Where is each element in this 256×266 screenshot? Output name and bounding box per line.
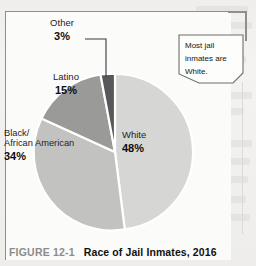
pie-label-other-name: Other	[34, 18, 90, 29]
pie-label-white-name: White	[122, 130, 182, 141]
pie-label-other: Other 3%	[34, 18, 90, 42]
pie-label-black-name-line1: Black/	[4, 128, 112, 138]
pie-label-other-value: 3%	[34, 30, 90, 42]
callout-box: Most jail inmates are White.	[177, 33, 245, 85]
pie-label-latino-value: 15%	[40, 84, 92, 96]
pie-label-latino-name: Latino	[40, 72, 92, 83]
figure-caption: FIGURE 12-1Race of Jail Inmates, 2016	[9, 242, 251, 260]
pie-label-white: White 48%	[122, 130, 182, 154]
pie-label-black-african-american: Black/ African American 34%	[4, 128, 112, 162]
pie-label-white-value: 48%	[122, 142, 182, 154]
callout-text: Most jail inmates are White.	[185, 40, 241, 79]
figure-title: Race of Jail Inmates, 2016	[84, 246, 217, 258]
figure-number: FIGURE 12-1	[9, 246, 75, 258]
pie-label-black-name-line2: African American	[4, 138, 112, 148]
pie-label-black-value: 34%	[4, 150, 112, 162]
pie-label-latino: Latino 15%	[40, 72, 92, 96]
